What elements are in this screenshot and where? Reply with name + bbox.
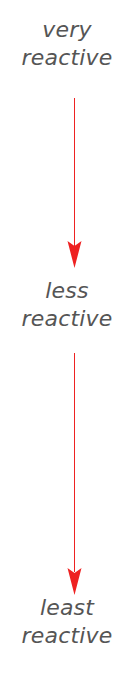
label-less-reactive-line2: reactive xyxy=(0,305,134,333)
label-least-reactive: least reactive xyxy=(0,594,134,650)
reactivity-arrow-diagram: very reactive less reactive least reacti… xyxy=(0,0,134,687)
label-very-reactive-line2: reactive xyxy=(0,44,134,72)
label-less-reactive: less reactive xyxy=(0,277,134,333)
label-very-reactive: very reactive xyxy=(0,16,134,72)
arrow-less-to-least-icon xyxy=(68,353,82,595)
arrow-very-to-less-icon xyxy=(68,98,82,268)
label-least-reactive-line2: reactive xyxy=(0,622,134,650)
label-very-reactive-line1: very xyxy=(0,16,134,44)
label-less-reactive-line1: less xyxy=(0,277,134,305)
label-least-reactive-line1: least xyxy=(0,594,134,622)
arrow-layer xyxy=(0,0,134,687)
